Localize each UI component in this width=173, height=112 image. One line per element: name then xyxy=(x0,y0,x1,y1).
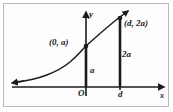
origin-label: O xyxy=(78,89,85,98)
point-label-0-a: (0, a) xyxy=(49,38,69,47)
y-axis-label: y xyxy=(89,10,93,19)
point-label-d-2a: (d, 2a) xyxy=(124,19,148,28)
curve-left-arrow xyxy=(12,81,24,83)
segment-label-a: a xyxy=(90,66,95,75)
segment-label-2a: 2a xyxy=(122,50,131,59)
exponential-curve-figure: (0, a) (d, 2a) a 2a O d x y xyxy=(0,0,173,112)
point-marker-0-a xyxy=(84,44,89,49)
point-marker-d-2a xyxy=(118,16,123,21)
x-axis-label: x xyxy=(160,92,164,100)
x-tick-label-d: d xyxy=(118,90,123,99)
figure-canvas xyxy=(0,0,173,112)
exponential-curve xyxy=(16,11,128,82)
